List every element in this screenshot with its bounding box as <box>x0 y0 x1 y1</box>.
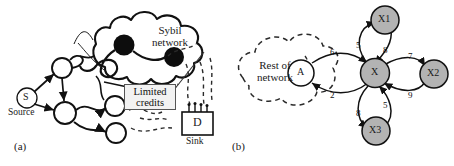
edge-cloud-down <box>96 76 104 100</box>
honest-node-1 <box>52 58 72 78</box>
sink-node-label: D <box>193 115 202 130</box>
rest-of-network-label: Rest of network <box>245 59 305 83</box>
limited-credits-label: Limited credits <box>124 84 176 110</box>
cloud-leader-line-1 <box>74 32 93 44</box>
edge-weight-x2-x: 9 <box>408 90 413 100</box>
edge-source-to-n1 <box>34 74 54 92</box>
node-x-label: X <box>371 66 378 77</box>
edge-weight-x-a: 2 <box>330 90 335 100</box>
node-x3-label: X3 <box>369 124 381 135</box>
source-caption: Source <box>8 107 34 117</box>
sybil-cloud-shape <box>93 12 202 84</box>
node-x2-label: X2 <box>427 67 439 78</box>
honest-node-4 <box>106 123 126 143</box>
source-node-label: S <box>23 91 29 102</box>
edge-weight-x-x3: 8 <box>356 108 361 118</box>
edge-weight-x-x1: 5 <box>356 40 361 50</box>
edge-weight-x1-x: 8 <box>383 45 388 55</box>
edge-weight-x-x2: 7 <box>408 51 413 61</box>
node-x1-label: X1 <box>378 13 390 24</box>
edge-x2-to-x <box>384 82 425 90</box>
sybil-cloud-label: Sybil network <box>141 24 199 48</box>
edge-weight-x3-x: 5 <box>383 100 388 110</box>
figure-canvas: Sybil network Limited credits S Source D… <box>0 0 454 166</box>
sybil-node-1 <box>114 35 135 56</box>
sybil-node-2 <box>164 47 184 67</box>
edge-n2-to-n3 <box>76 107 106 111</box>
panel-a-caption: (a) <box>14 140 26 152</box>
panel-b-caption: (b) <box>232 140 245 152</box>
edge-weight-a-x: 6 <box>330 47 335 57</box>
edge-n2-to-n4 <box>74 122 106 132</box>
edge-a-to-x <box>312 53 367 63</box>
edge-n1-to-n2 <box>62 78 64 101</box>
edge-x-to-a <box>312 83 368 93</box>
honest-node-2 <box>54 102 76 124</box>
honest-node-3 <box>105 96 125 116</box>
node-a-label: A <box>297 66 304 77</box>
sink-caption: Sink <box>186 136 203 146</box>
edge-source-to-n2 <box>34 104 54 110</box>
panel-b-graphics <box>227 0 454 166</box>
edge-x-to-x2 <box>384 58 425 66</box>
